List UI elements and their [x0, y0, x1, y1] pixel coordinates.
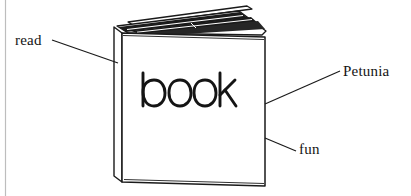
annotation-label-petunia: Petunia — [343, 64, 389, 79]
book-drawing — [114, 6, 266, 186]
book-diagram-canvas: read Petunia fun — [0, 0, 411, 196]
annotation-label-fun: fun — [299, 142, 320, 157]
annotation-label-read: read — [15, 33, 42, 48]
book-spine — [114, 27, 122, 182]
book-illustration — [0, 0, 411, 196]
leader-line-fun — [265, 138, 296, 151]
leader-line-petunia — [265, 71, 340, 104]
leader-line-read — [52, 40, 118, 63]
book-front-cover — [122, 33, 265, 186]
